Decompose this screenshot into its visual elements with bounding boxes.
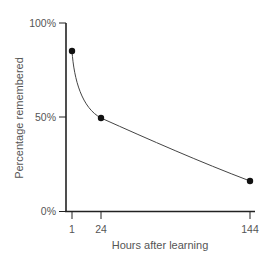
y-tick-label-100: 100% (29, 17, 56, 29)
y-tick-label-50: 50% (35, 111, 56, 123)
data-point-1h (69, 48, 75, 54)
data-point-144h (247, 178, 253, 184)
data-point-24h (98, 115, 104, 121)
x-tick-label-144: 144 (241, 223, 259, 235)
x-axis-title: Hours after learning (112, 239, 209, 251)
y-axis-title: Percentage remembered (13, 57, 25, 179)
y-tick-label-0: 0% (41, 205, 56, 217)
x-tick-label-1: 1 (69, 223, 75, 235)
x-tick-label-24: 24 (95, 223, 107, 235)
forgetting-curve-chart: 100% 50% 0% 1 24 144 Hours after learnin… (0, 0, 272, 263)
